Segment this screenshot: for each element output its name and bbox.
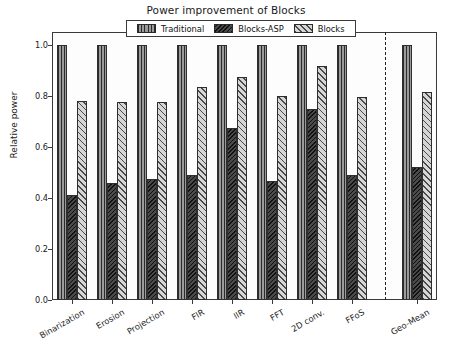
y-axis-tick: 0.4 (4, 193, 48, 203)
bar-blocks-asp-geo-mean (412, 167, 422, 300)
bar-traditional-2d-conv (297, 45, 307, 300)
bar-blocks-ffos (357, 97, 367, 300)
bar-traditional-geo-mean (402, 45, 412, 300)
chart-figure: Power improvement of Blocks Relative pow… (0, 0, 452, 348)
bar-blocks-asp-fir (187, 175, 197, 300)
y-axis-tick-labels: 0.00.20.40.60.81.0 (0, 0, 48, 348)
x-axis-tick-label: IIR (154, 307, 246, 348)
legend-entry-traditional: Traditional (137, 24, 204, 34)
bar-blocks-geo-mean (422, 92, 432, 300)
y-axis-tick: 0.8 (4, 91, 48, 101)
bar-traditional-fft (257, 45, 267, 300)
bar-blocks-asp-fft (267, 181, 277, 300)
x-axis-tick-mark (152, 300, 153, 304)
geomean-separator-line (385, 32, 386, 300)
bar-blocks-asp-projection (147, 179, 157, 300)
bar-blocks-asp-erosion (107, 183, 117, 300)
bar-blocks-2d-conv (317, 66, 327, 300)
x-axis-tick-mark (192, 300, 193, 304)
bar-blocks-fft (277, 96, 287, 300)
y-axis-tick-mark (48, 45, 52, 46)
bar-blocks-fir (197, 87, 207, 300)
bar-traditional-fir (177, 45, 187, 300)
x-axis-tick-label: Projection (74, 307, 166, 348)
legend-label: Blocks-ASP (238, 24, 284, 34)
x-axis-tick-mark (352, 300, 353, 304)
y-axis-tick: 0.2 (4, 244, 48, 254)
bar-blocks-binarization (77, 101, 87, 300)
x-axis-tick-label: FFT (195, 307, 287, 348)
legend-swatch-blocks-asp-icon (214, 24, 233, 33)
bar-traditional-ffos (337, 45, 347, 300)
x-axis-tick-mark (232, 300, 233, 304)
bar-blocks-projection (157, 102, 167, 300)
bar-blocks-erosion (117, 102, 127, 300)
y-axis-tick-mark (48, 249, 52, 250)
y-axis-tick-mark (48, 198, 52, 199)
y-axis-tick: 1.0 (4, 40, 48, 50)
bar-blocks-asp-ffos (347, 175, 357, 300)
x-axis-tick-label: Erosion (34, 307, 126, 348)
y-axis-tick: 0.0 (4, 295, 48, 305)
bar-blocks-asp-binarization (67, 195, 77, 300)
y-axis-tick-mark (48, 96, 52, 97)
x-axis-tick-label: FIR (114, 307, 206, 348)
x-axis-tick-label: 2D conv. (235, 307, 327, 348)
x-axis-tick-mark (272, 300, 273, 304)
x-axis-tick-label: Geo-Mean (339, 307, 431, 348)
x-axis-tick-mark (72, 300, 73, 304)
y-axis-tick-mark (48, 300, 52, 301)
x-axis-tick-mark (112, 300, 113, 304)
bar-traditional-iir (217, 45, 227, 300)
y-axis-tick: 0.6 (4, 142, 48, 152)
bar-traditional-projection (137, 45, 147, 300)
legend-swatch-blocks-icon (294, 24, 313, 33)
y-axis-tick-mark (48, 147, 52, 148)
legend-entry-blocks: Blocks (294, 24, 345, 34)
bar-blocks-iir (237, 77, 247, 300)
bar-traditional-erosion (97, 45, 107, 300)
chart-title: Power improvement of Blocks (0, 4, 452, 16)
legend-label: Blocks (318, 24, 345, 34)
bar-blocks-asp-2d-conv (307, 109, 317, 300)
legend-entry-blocks-asp: Blocks-ASP (214, 24, 284, 34)
plot-area (52, 32, 437, 300)
x-axis-tick-mark (312, 300, 313, 304)
legend-swatch-traditional-icon (137, 24, 156, 33)
chart-legend: TraditionalBlocks-ASPBlocks (126, 20, 356, 37)
x-axis-tick-label: FFoS (275, 307, 367, 348)
bar-traditional-binarization (57, 45, 67, 300)
bar-blocks-asp-iir (227, 128, 237, 300)
x-axis-tick-mark (417, 300, 418, 304)
legend-label: Traditional (161, 24, 204, 34)
